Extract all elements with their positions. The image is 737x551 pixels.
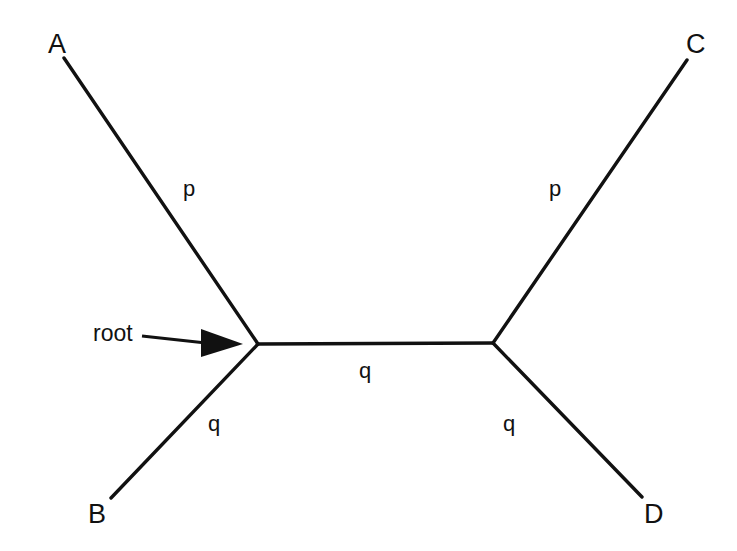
branch-label-b: q: [208, 413, 220, 435]
branch-label-c: p: [549, 178, 561, 200]
taxon-label-d: D: [644, 501, 664, 528]
root-arrow-shaft: [142, 336, 206, 343]
branch-a-to-left-node: [64, 58, 258, 344]
tree-diagram-svg: [0, 0, 737, 551]
branch-c-to-right-node: [493, 60, 687, 343]
branch-label-internal: q: [359, 360, 371, 382]
taxon-label-a: A: [48, 31, 66, 58]
branch-d-to-right-node: [493, 343, 642, 497]
branch-label-d: q: [503, 413, 515, 435]
phylogenetic-tree-figure: A B C D p q p q q root: [0, 0, 737, 551]
root-annotation-label: root: [93, 322, 133, 345]
branch-internal-node-to-node: [258, 343, 493, 344]
root-arrow-head-icon: [201, 329, 243, 357]
taxon-label-b: B: [88, 501, 106, 528]
branch-label-a: p: [183, 178, 195, 200]
branch-b-to-left-node: [111, 344, 258, 498]
taxon-label-c: C: [686, 31, 706, 58]
